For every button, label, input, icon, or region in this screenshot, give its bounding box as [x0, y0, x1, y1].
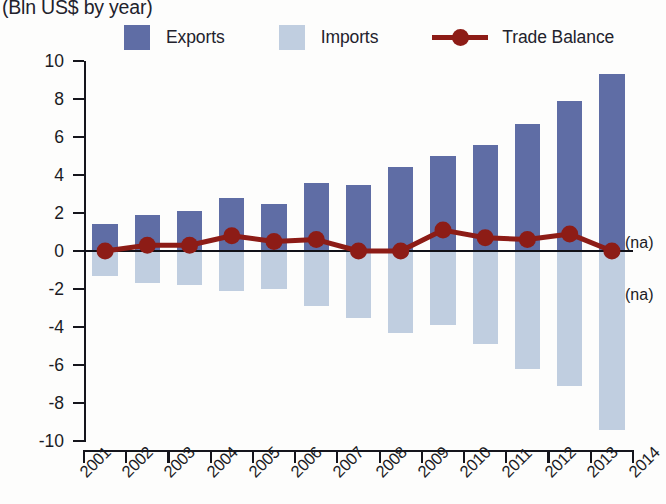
- x-tick-label: 2010: [456, 443, 495, 482]
- bar-exports: [515, 124, 540, 251]
- y-tick-label: 10: [18, 51, 64, 72]
- y-tick-label: -6: [18, 355, 64, 376]
- x-tick-label: 2007: [329, 443, 368, 482]
- y-tick: [73, 174, 84, 176]
- y-tick: [73, 326, 84, 328]
- bar-imports: [219, 251, 244, 291]
- x-tick-label: 2002: [118, 443, 157, 482]
- y-tick-label: 4: [18, 165, 64, 186]
- bar-imports: [473, 251, 498, 344]
- bar-imports: [177, 251, 202, 285]
- na-label-below: (na): [625, 286, 653, 304]
- bar-exports: [557, 101, 582, 251]
- y-tick-label: 8: [18, 89, 64, 110]
- y-tick: [73, 60, 84, 62]
- bar-imports: [557, 251, 582, 386]
- bar-imports: [304, 251, 329, 306]
- x-tick-label: 2001: [76, 443, 115, 482]
- bar-exports: [304, 183, 329, 251]
- y-tick-label: 2: [18, 203, 64, 224]
- bar-imports: [388, 251, 413, 333]
- y-tick: [73, 212, 84, 214]
- x-tick-label: 2008: [372, 443, 411, 482]
- bar-exports: [92, 224, 117, 251]
- bar-exports: [177, 211, 202, 251]
- bar-imports: [430, 251, 455, 325]
- y-tick: [73, 98, 84, 100]
- bar-exports: [473, 145, 498, 251]
- y-tick: [73, 288, 84, 290]
- x-tick-label: 2014: [625, 443, 664, 482]
- bar-imports: [515, 251, 540, 369]
- y-tick-label: -4: [18, 317, 64, 338]
- x-tick-label: 2005: [245, 443, 284, 482]
- y-tick: [73, 402, 84, 404]
- bar-exports: [261, 204, 286, 252]
- bar-exports: [430, 156, 455, 251]
- zero-baseline: [84, 250, 633, 252]
- bar-imports: [135, 251, 160, 283]
- bar-exports: [346, 185, 371, 252]
- x-tick-label: 2004: [203, 443, 242, 482]
- bar-exports: [388, 167, 413, 251]
- y-tick: [73, 136, 84, 138]
- plot-area: 1086420-2-4-6-8-10 200120022003200420052…: [0, 0, 666, 504]
- bar-imports: [261, 251, 286, 289]
- y-tick-label: 6: [18, 127, 64, 148]
- y-tick: [73, 440, 84, 442]
- trade-chart: (Bln US$ by year) Exports Imports Trade …: [0, 0, 666, 504]
- bar-imports: [346, 251, 371, 318]
- x-tick-label: 2003: [160, 443, 199, 482]
- x-tick-label: 2013: [583, 443, 622, 482]
- y-tick: [73, 364, 84, 366]
- x-tick-label: 2009: [414, 443, 453, 482]
- x-tick-label: 2012: [541, 443, 580, 482]
- y-tick: [73, 250, 84, 252]
- x-tick-label: 2006: [287, 443, 326, 482]
- y-tick-label: -2: [18, 279, 64, 300]
- bar-exports: [219, 198, 244, 251]
- bar-exports: [599, 74, 624, 251]
- y-tick-label: -10: [18, 431, 64, 452]
- y-tick-label: -8: [18, 393, 64, 414]
- bar-exports: [135, 215, 160, 251]
- bar-imports: [92, 251, 117, 276]
- y-tick-label: 0: [18, 241, 64, 262]
- bar-imports: [599, 251, 624, 430]
